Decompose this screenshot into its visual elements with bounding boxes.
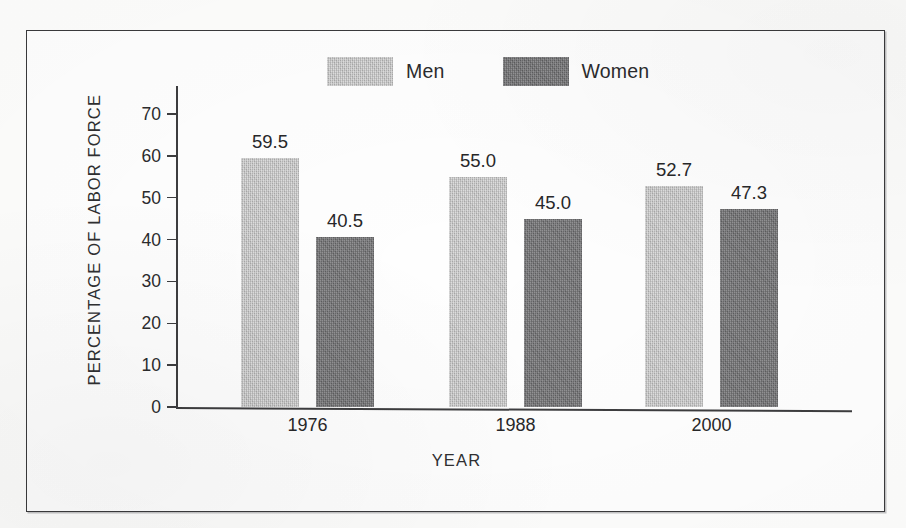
bar-value-label: 55.0 [460,150,496,172]
bar-men-2000: 52.7 [645,186,703,407]
bar-men-1988: 55.0 [449,177,507,407]
x-axis-category-label: 2000 [691,415,731,436]
x-axis-category-label: 1976 [287,415,327,436]
bar-value-label: 47.3 [731,182,767,204]
bar-women-1976: 40.5 [316,237,374,407]
x-axis-category-label: 1988 [495,415,535,436]
figure-frame: Men Women 010203040506070 PERCENTAGE OF … [26,30,885,512]
bar-men-1976: 59.5 [241,158,299,407]
bar-value-label: 45.0 [535,192,571,214]
bar-women-2000: 47.3 [720,209,778,407]
bar-value-label: 59.5 [252,131,288,153]
bar-value-label: 40.5 [327,210,363,232]
bar-chart: Men Women 010203040506070 PERCENTAGE OF … [27,31,886,513]
bar-value-label: 52.7 [656,159,692,181]
scanned-page: Men Women 010203040506070 PERCENTAGE OF … [0,0,906,528]
bar-women-1988: 45.0 [524,219,582,407]
bars-layer: 59.540.5197655.045.0198852.747.32000 [27,31,886,513]
